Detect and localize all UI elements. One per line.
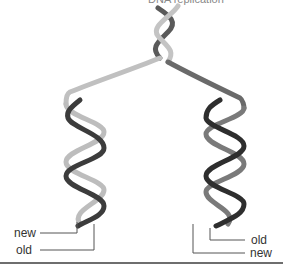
old-strand-right-branch (168, 62, 244, 108)
old-strand-left-branch (66, 58, 160, 104)
label-right-old: old (251, 234, 267, 246)
leader-lines-left (40, 222, 94, 250)
bottom-rule (0, 262, 283, 264)
label-left-new: new (14, 227, 36, 239)
dna-replication-diagram (0, 0, 283, 267)
leader-lines-right (193, 224, 245, 253)
left-daughter-helix (66, 100, 104, 226)
label-right-new: new (250, 247, 272, 259)
label-left-old: old (16, 244, 32, 256)
parent-helix (155, 6, 178, 62)
right-daughter-helix (206, 100, 244, 226)
